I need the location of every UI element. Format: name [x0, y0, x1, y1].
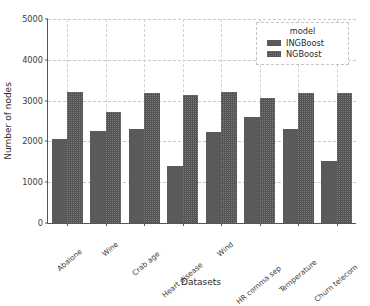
- bar-ngboost-churn-telecom: [337, 93, 352, 223]
- bar-ngboost-temperature: [298, 93, 313, 223]
- bar-ngboost-wine: [106, 112, 121, 223]
- legend-item-ngboost[interactable]: NGBoost: [267, 49, 344, 59]
- y-tick-label: 0: [38, 218, 43, 228]
- x-tick-mark: [337, 223, 338, 226]
- x-tick-mark: [144, 223, 145, 226]
- legend-item-ingboost[interactable]: INGBoost: [267, 38, 344, 48]
- legend-label-ngboost: NGBoost: [286, 49, 322, 59]
- y-tick-label: 1000: [22, 177, 43, 187]
- y-axis-label: Number of nodes: [3, 82, 13, 160]
- x-tick-mark: [298, 223, 299, 226]
- x-tick-label: Wine: [100, 240, 120, 259]
- y-tick-label: 2000: [22, 136, 43, 146]
- x-tick-label: Abalone: [55, 247, 84, 273]
- bar-ingboost-wine: [90, 131, 105, 223]
- y-tick-label: 3000: [22, 96, 43, 106]
- x-tick-label: Wind: [215, 240, 235, 259]
- bar-ngboost-heart-disease: [183, 95, 198, 223]
- bar-ngboost-crab-age: [144, 93, 159, 223]
- y-tick-mark: [45, 19, 48, 20]
- x-tick-mark: [67, 223, 68, 226]
- bar-ingboost-churn-telecom: [321, 161, 336, 223]
- y-tick-label: 4000: [22, 55, 43, 65]
- x-tick-label: HR comma sep: [234, 264, 282, 306]
- x-tick-label: Crab age: [131, 249, 162, 277]
- y-tick-mark: [45, 141, 48, 142]
- x-tick-mark: [221, 223, 222, 226]
- bar-ingboost-hr-comma-sep: [244, 117, 259, 223]
- bar-ngboost-hr-comma-sep: [260, 98, 275, 223]
- y-tick-mark: [45, 100, 48, 101]
- bar-ingboost-temperature: [283, 129, 298, 223]
- bar-ingboost-crab-age: [129, 129, 144, 223]
- y-tick-label: 5000: [22, 14, 43, 24]
- legend-title: model: [261, 26, 344, 36]
- legend-swatch-icon-ingboost: [267, 40, 281, 46]
- bar-ingboost-heart-disease: [167, 166, 182, 223]
- bar-ngboost-wind: [221, 92, 236, 223]
- chart-legend: model INGBoost NGBoost: [256, 22, 349, 65]
- legend-swatch-icon-ngboost: [267, 51, 281, 57]
- x-tick-mark: [106, 223, 107, 226]
- bar-ingboost-wind: [206, 132, 221, 223]
- x-tick-mark: [183, 223, 184, 226]
- bar-ngboost-abalone: [67, 92, 82, 223]
- x-tick-label: Temperature: [278, 258, 319, 295]
- y-tick-mark: [45, 59, 48, 60]
- y-tick-mark: [45, 223, 48, 224]
- y-tick-mark: [45, 182, 48, 183]
- legend-label-ingboost: INGBoost: [286, 38, 324, 48]
- y-gridline: [48, 19, 356, 20]
- x-tick-mark: [260, 223, 261, 226]
- x-tick-label: Churn telecom: [312, 262, 359, 303]
- bar-ingboost-abalone: [52, 139, 67, 223]
